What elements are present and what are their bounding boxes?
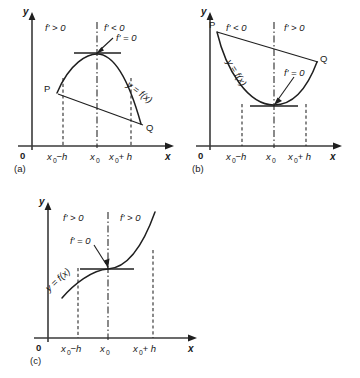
stationary-annotation: f′ = 0 <box>70 235 91 246</box>
svg-text:0: 0 <box>96 157 100 164</box>
stationary-arrow-head <box>104 259 110 270</box>
point-q-label: Q <box>320 53 327 64</box>
x-axis-arrowhead <box>188 334 197 341</box>
svg-text:x: x <box>287 151 294 162</box>
svg-text:x: x <box>132 343 139 354</box>
tick-label-x0-minus-h: x 0 −h <box>60 343 81 356</box>
point-p-label: P <box>44 83 50 94</box>
region-label-left: f′ > 0 <box>45 22 66 33</box>
region-label-left: f′ > 0 <box>63 212 84 223</box>
curve-equation-label: y = f(x) <box>224 56 249 88</box>
svg-text:x: x <box>265 151 272 162</box>
tick-label-x0: x 0 <box>99 343 110 356</box>
svg-text:0: 0 <box>106 349 110 356</box>
x-axis-label: x <box>164 151 171 162</box>
figure-root: y x 0 f′ > 0 f′ < 0 f′ = 0 y = f(x) P Q … <box>0 0 360 378</box>
stationary-arrow-line <box>94 245 106 264</box>
panel-a: y x 0 f′ > 0 f′ < 0 f′ = 0 y = f(x) P Q … <box>0 0 182 170</box>
origin-label: 0 <box>198 150 203 161</box>
y-axis-label: y <box>22 6 29 17</box>
y-axis-arrowhead <box>29 12 36 20</box>
tick-label-x0: x 0 <box>265 151 276 164</box>
point-p-label: P <box>209 19 215 30</box>
tick-label-x0-plus-h: x 0 + h <box>108 151 132 164</box>
y-axis-arrowhead <box>45 202 52 210</box>
region-label-left: f′ < 0 <box>226 22 247 33</box>
svg-text:x: x <box>99 343 106 354</box>
y-axis-label: y <box>200 6 207 17</box>
stationary-annotation: f′ = 0 <box>284 67 305 78</box>
tick-label-x0-minus-h: x 0 −h <box>225 151 246 164</box>
panel-c: y x 0 f′ > 0 f′ > 0 f′ = 0 y = f(x) x 0 … <box>16 188 226 374</box>
tick-label-x0-minus-h: x 0 −h <box>46 151 67 164</box>
svg-text:−h: −h <box>57 151 68 162</box>
x-axis-arrowhead <box>333 142 342 149</box>
origin-label: 0 <box>20 150 25 161</box>
svg-text:−h: −h <box>236 151 247 162</box>
svg-text:x: x <box>60 343 67 354</box>
svg-text:+ h: + h <box>119 151 132 162</box>
tick-label-x0-plus-h: x 0 + h <box>287 151 311 164</box>
region-label-right: f′ > 0 <box>120 212 141 223</box>
svg-text:−h: −h <box>71 343 82 354</box>
x-axis-label: x <box>329 151 336 162</box>
region-label-right: f′ > 0 <box>284 22 305 33</box>
svg-text:x: x <box>46 151 53 162</box>
curve-equation-label: y = f(x) <box>42 266 72 294</box>
stationary-annotation: f′ = 0 <box>116 32 137 43</box>
svg-text:x: x <box>89 151 96 162</box>
origin-label: 0 <box>36 342 41 353</box>
svg-text:x: x <box>225 151 232 162</box>
x-axis-arrowhead <box>165 142 174 149</box>
panel-b: y x 0 f′ < 0 f′ > 0 f′ = 0 y = f(x) P Q … <box>178 0 360 170</box>
tick-label-x0-plus-h: x 0 + h <box>132 343 156 356</box>
svg-text:0: 0 <box>272 157 276 164</box>
tick-label-x0: x 0 <box>89 151 100 164</box>
curve-equation-label: y = f(x) <box>124 78 155 105</box>
chord-pq <box>58 94 143 125</box>
panel-b-caption: (b) <box>192 163 204 174</box>
panel-c-caption: (c) <box>30 355 41 366</box>
svg-text:+ h: + h <box>298 151 311 162</box>
y-axis-label: y <box>38 196 45 207</box>
stationary-arrow-line <box>277 77 294 101</box>
panel-a-caption: (a) <box>14 163 26 174</box>
x-axis-label: x <box>187 343 194 354</box>
svg-text:x: x <box>108 151 115 162</box>
svg-text:+ h: + h <box>143 343 156 354</box>
point-q-label: Q <box>146 122 153 133</box>
